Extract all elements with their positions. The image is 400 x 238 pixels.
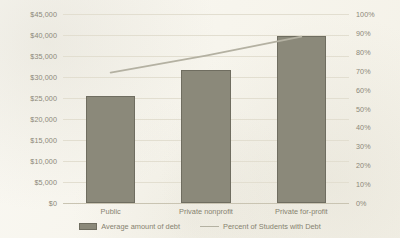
y-axis-right-tick: 50% [356,104,396,113]
x-axis-tick-label: Private nonprofit [179,207,233,216]
y-axis-left-tick: $0 [5,199,57,208]
y-axis-right-tick: 100% [356,10,396,19]
y-axis-right-tick: 20% [356,161,396,170]
y-axis-right-tick: 30% [356,142,396,151]
y-axis-left-tick: $25,000 [5,94,57,103]
legend-label-bar: Average amount of debt [101,222,180,231]
chart-legend: Average amount of debt Percent of Studen… [0,222,400,231]
y-axis-left-tick: $10,000 [5,157,57,166]
y-axis-right-tick: 60% [356,85,396,94]
x-axis-tick-label: Public [101,207,121,216]
bar-swatch-icon [79,223,97,230]
y-axis-left-tick: $15,000 [5,136,57,145]
y-axis-left-tick: $40,000 [5,31,57,40]
y-axis-right-tick: 90% [356,28,396,37]
y-axis-right-tick: 10% [356,180,396,189]
y-axis-left-tick: $45,000 [5,10,57,19]
y-axis-left-tick: $5,000 [5,178,57,187]
line-series [63,14,349,203]
y-axis-right-tick: 80% [356,47,396,56]
legend-item-bar: Average amount of debt [79,222,180,231]
x-axis-tick-label: Private for-profit [275,207,328,216]
y-axis-left-tick: $30,000 [5,73,57,82]
gridline [63,203,349,204]
y-axis-right-tick: 70% [356,66,396,75]
line-swatch-icon [200,226,219,227]
trend-line [111,37,302,73]
legend-item-line: Percent of Students with Debt [200,222,321,231]
y-axis-left-tick: $35,000 [5,52,57,61]
legend-label-line: Percent of Students with Debt [223,222,321,231]
y-axis-left-tick: $20,000 [5,115,57,124]
chart-container: $0$5,000$10,000$15,000$20,000$25,000$30,… [0,0,400,238]
plot-area [63,14,349,203]
y-axis-right-tick: 0% [356,199,396,208]
y-axis-right-tick: 40% [356,123,396,132]
